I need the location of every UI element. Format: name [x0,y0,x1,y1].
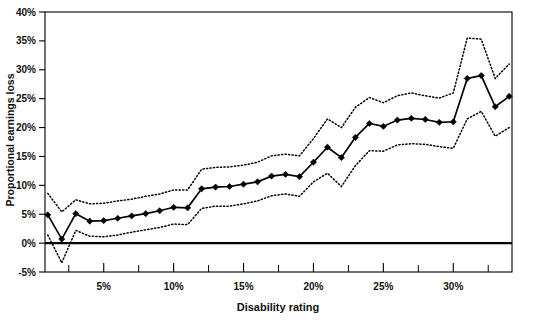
chart-figure: 40%35%30%25%20%15%10%5%0%-5% 5%10%15%20%… [0,0,534,320]
y-axis-tick-label: -5% [18,267,36,278]
x-axis-tick-label: 5% [96,281,111,292]
y-axis-tick-label: 5% [22,209,37,220]
x-axis-tick-label: 15% [234,281,254,292]
y-axis-tick-label: 10% [16,180,36,191]
x-axis-tick-label: 30% [443,281,463,292]
y-axis-tick-label: 0% [22,238,37,249]
y-axis-tick-label: 15% [16,151,36,162]
y-axis-tick-label: 40% [16,7,36,18]
y-axis-title: Proportional earnings loss [4,73,16,206]
y-axis-tick-label: 35% [16,35,36,46]
y-axis-tick-label: 20% [16,122,36,133]
x-axis-tick-label: 10% [164,281,184,292]
x-axis-tick-label: 25% [373,281,393,292]
earnings-loss-line-chart: 40%35%30%25%20%15%10%5%0%-5% 5%10%15%20%… [0,0,534,320]
x-axis-tick-label: 20% [303,281,323,292]
y-axis-tick-label: 25% [16,93,36,104]
y-axis-tick-label: 30% [16,64,36,75]
x-axis-title: Disability rating [237,301,320,313]
